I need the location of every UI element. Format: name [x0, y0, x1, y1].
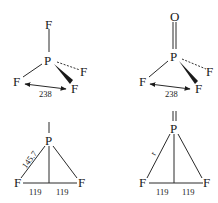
atom-p: P [170, 49, 177, 64]
opf3-projection: P F F r 119 119 [139, 111, 210, 197]
atom-f-right: F [78, 175, 85, 190]
atom-p: P [45, 133, 52, 148]
atom-f-left: F [139, 175, 146, 190]
atom-f-top: F [45, 17, 52, 32]
bond-p-f-right [53, 146, 77, 178]
bond-p-f-left [23, 64, 42, 77]
atom-f-dashed: F [80, 64, 87, 79]
label-ff-distance: 238 [165, 89, 178, 99]
atom-f-left: F [13, 74, 20, 89]
label-half-left: 119 [29, 187, 41, 197]
label-half-right: 119 [56, 187, 68, 197]
atom-f-wedge: F [195, 81, 202, 96]
atom-f-left: F [139, 74, 146, 89]
figure-canvas: F P F F F 238 O P F F F 238 P F F 145.7 … [0, 0, 218, 203]
atom-f-dashed: F [206, 64, 213, 79]
opf3-3d-structure: O P F F F 238 [139, 9, 213, 99]
atom-f-left: F [14, 175, 21, 190]
label-pf-bond: 145.7 [20, 149, 39, 170]
atom-p: P [44, 53, 51, 68]
atom-o: O [170, 9, 179, 24]
bond-p-f-dashed [57, 62, 80, 70]
molecular-geometry-figure: F P F F F 238 O P F F F 238 P F F 145.7 … [0, 0, 218, 203]
atom-f-right: F [203, 175, 210, 190]
pf3-3d-structure: F P F F F 238 [13, 17, 87, 99]
bond-p-f-right [178, 134, 202, 178]
bond-p-f-left [149, 61, 168, 77]
atom-f-wedge: F [71, 81, 78, 96]
bond-p-f-dashed [182, 59, 206, 69]
label-ff-distance: 238 [39, 89, 52, 99]
bond-p-f-left [147, 134, 170, 178]
label-half-right: 119 [182, 187, 194, 197]
pf3-projection: P F F 145.7 119 119 [14, 122, 85, 197]
atom-p: P [170, 121, 177, 136]
label-half-left: 119 [156, 187, 168, 197]
label-pf-bond: r [148, 150, 158, 157]
